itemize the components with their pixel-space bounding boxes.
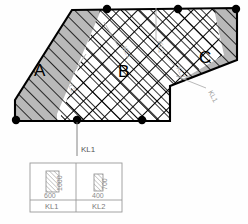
cad-drawing-svg: A B C KL1 KL1 KL2 KL2 KL1 KL1 1000 600 K… — [0, 0, 248, 224]
node-point — [232, 5, 240, 13]
section-height-kl1: 1000 — [56, 175, 63, 191]
beam-section-legend: 1000 600 KL1 700 400 KL2 — [30, 163, 122, 212]
annotation-kl1-middle: KL1 — [157, 41, 165, 54]
node-point — [174, 5, 182, 13]
region-label-b: B — [118, 62, 129, 81]
section-height-kl2: 700 — [101, 178, 108, 190]
region-label-a: A — [34, 61, 46, 80]
drawing-canvas: A B C KL1 KL1 KL2 KL2 KL1 KL1 1000 600 K… — [0, 0, 248, 224]
section-name-kl2: KL2 — [92, 202, 105, 211]
annotation-kl1-bottom: KL1 — [81, 145, 96, 154]
section-width-kl2: 400 — [92, 192, 104, 199]
section-width-kl1: 600 — [44, 192, 56, 199]
region-label-c: C — [199, 48, 211, 67]
section-name-kl1: KL1 — [45, 202, 58, 211]
node-point — [138, 116, 146, 124]
node-point — [12, 116, 20, 124]
annotation-kl1-right: KL1 — [207, 89, 219, 103]
node-point — [103, 5, 111, 13]
